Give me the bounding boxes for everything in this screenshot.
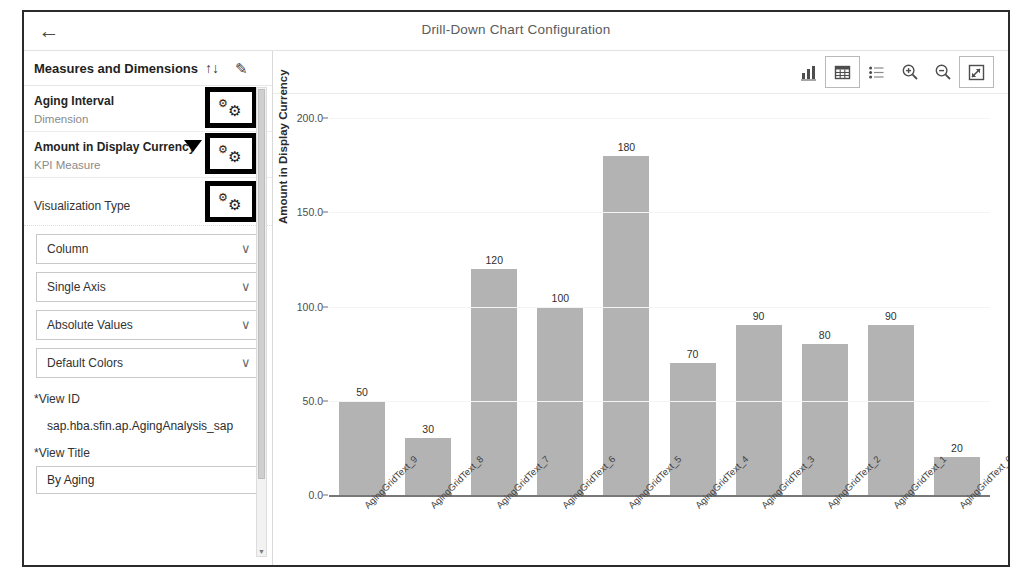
body-split: Measures and Dimensions ↑↓ ✎ Aging Inter… <box>24 51 1008 566</box>
chart-type-select-value: Column <box>47 242 88 256</box>
settings-gear-button-amount-display-currency[interactable]: ⚙⚙ <box>205 133 257 174</box>
axis-mode-select[interactable]: Single Axis ∨ <box>36 272 262 302</box>
color-scheme-select-value: Default Colors <box>47 356 123 370</box>
chart-view-icon[interactable] <box>792 57 825 87</box>
chart-bar[interactable] <box>339 401 385 495</box>
view-title-input[interactable]: By Aging <box>36 466 262 494</box>
measure-row-aging-interval[interactable]: Aging Interval Dimension ⚙⚙ <box>24 86 272 132</box>
bar-value-label: 80 <box>819 329 831 341</box>
annotation-triangle-icon <box>184 140 202 152</box>
settings-gear-button-aging-interval[interactable]: ⚙⚙ <box>205 87 257 128</box>
gridline <box>329 401 990 402</box>
x-label-slot: AgingGridText_4 <box>659 499 725 567</box>
value-mode-select[interactable]: Absolute Values ∨ <box>36 310 262 340</box>
measure-row-amount-display-currency[interactable]: Amount in Display Currency KPI Measure ⚙… <box>24 132 272 178</box>
chevron-down-icon: ∨ <box>241 317 251 332</box>
x-axis-tick-labels: AgingGridText_9AgingGridText_8AgingGridT… <box>329 499 990 567</box>
y-axis-tick-mark <box>323 495 328 496</box>
x-label-slot: AgingGridText_5 <box>593 499 659 567</box>
chart-bar[interactable] <box>868 325 914 495</box>
bar-series: 50301201001807090809020 <box>329 104 990 495</box>
gear-icon: ⚙⚙ <box>218 191 244 213</box>
bar-value-label: 50 <box>356 386 368 398</box>
sidebar: Measures and Dimensions ↑↓ ✎ Aging Inter… <box>24 51 273 566</box>
bar-value-label: 20 <box>951 442 963 454</box>
bar-slot: 100 <box>527 104 593 495</box>
chevron-down-icon: ∨ <box>241 241 251 256</box>
bar-slot: 30 <box>395 104 461 495</box>
chart-bar[interactable] <box>603 156 649 495</box>
scroll-down-icon[interactable]: ▼ <box>258 548 265 556</box>
value-mode-select-value: Absolute Values <box>47 318 133 332</box>
y-axis-tick-mark <box>323 118 328 119</box>
bar-slot: 50 <box>329 104 395 495</box>
x-label-slot: AgingGridText_1 <box>858 499 924 567</box>
x-label-slot: AgingGridText_7 <box>461 499 527 567</box>
bar-value-label: 70 <box>687 348 699 360</box>
bar-slot: 20 <box>924 104 990 495</box>
sidebar-scrollbar[interactable]: ▲ ▼ <box>256 87 267 557</box>
sort-icon[interactable]: ↑↓ <box>205 61 219 75</box>
gridline <box>329 118 990 119</box>
bar-value-label: 180 <box>618 141 636 153</box>
app-window: ← Drill-Down Chart Configuration Measure… <box>22 10 1010 567</box>
page-title: Drill-Down Chart Configuration <box>24 22 1008 37</box>
x-label-slot: AgingGridText_6 <box>527 499 593 567</box>
x-label-slot: AgingGridText_9 <box>329 499 395 567</box>
view-title-label: *View Title <box>34 446 262 460</box>
x-axis-line <box>329 495 990 497</box>
y-axis-tick-label: 150.0 <box>297 206 323 218</box>
y-axis-tick-label: 100.0 <box>297 301 323 313</box>
x-label-slot: AgingGridText_8 <box>395 499 461 567</box>
bar-value-label: 100 <box>552 292 570 304</box>
bar-slot: 70 <box>659 104 725 495</box>
plot-canvas: 50301201001807090809020 0.050.0100.0150.… <box>329 104 990 497</box>
y-axis-label: Amount in Display Currency <box>277 69 289 224</box>
y-axis-tick-label: 50.0 <box>303 395 323 407</box>
zoom-out-icon[interactable] <box>926 57 959 87</box>
bar-slot: 90 <box>726 104 792 495</box>
bar-slot: 90 <box>858 104 924 495</box>
y-axis-tick-mark <box>323 400 328 401</box>
y-axis-tick-label: 200.0 <box>297 112 323 124</box>
titlebar: ← Drill-Down Chart Configuration <box>24 12 1008 51</box>
chart-bar[interactable] <box>802 344 848 495</box>
edit-pencil-icon[interactable]: ✎ <box>235 61 248 76</box>
chevron-down-icon: ∨ <box>241 355 251 370</box>
bar-slot: 120 <box>461 104 527 495</box>
screenshot-root: ← Drill-Down Chart Configuration Measure… <box>0 0 1034 584</box>
y-axis-tick-label: 0.0 <box>308 489 323 501</box>
chevron-down-icon: ∨ <box>241 279 251 294</box>
gridline <box>329 212 990 213</box>
chart-panel: Amount in Display Currency 5030120100180… <box>273 51 1008 566</box>
chart-toolbar <box>273 51 1008 94</box>
view-id-input[interactable]: sap.hba.sfin.ap.AgingAnalysis_sap <box>36 412 262 440</box>
table-view-icon[interactable] <box>825 56 860 88</box>
visualization-type-section: Visualization Type ⚙⚙ <box>24 178 272 226</box>
fullscreen-icon[interactable] <box>959 56 994 88</box>
bar-value-label: 90 <box>885 310 897 322</box>
plot-area: Amount in Display Currency 5030120100180… <box>273 94 1008 567</box>
view-id-label: *View ID <box>34 392 262 406</box>
chart-bar[interactable] <box>670 363 716 495</box>
chart-bar[interactable] <box>736 325 782 495</box>
settings-gear-button-visualization-type[interactable]: ⚙⚙ <box>205 181 257 222</box>
gear-icon: ⚙⚙ <box>218 97 244 119</box>
color-scheme-select[interactable]: Default Colors ∨ <box>36 348 262 378</box>
bar-slot: 80 <box>792 104 858 495</box>
x-label-slot: AgingGridText_3 <box>726 499 792 567</box>
y-axis-tick-mark <box>323 212 328 213</box>
sidebar-header-title: Measures and Dimensions <box>34 61 198 76</box>
bar-slot: 180 <box>593 104 659 495</box>
y-axis-tick-mark <box>323 306 328 307</box>
axis-mode-select-value: Single Axis <box>47 280 106 294</box>
list-view-icon[interactable] <box>860 57 893 87</box>
bar-value-label: 120 <box>485 254 503 266</box>
sidebar-scrollbar-thumb[interactable] <box>258 89 265 479</box>
bar-value-label: 90 <box>753 310 765 322</box>
zoom-in-icon[interactable] <box>893 57 926 87</box>
panel-bottom-border <box>273 565 1008 567</box>
x-label-slot: AgingGridText_2 <box>792 499 858 567</box>
gridline <box>329 307 990 308</box>
chart-type-select[interactable]: Column ∨ <box>36 234 262 264</box>
